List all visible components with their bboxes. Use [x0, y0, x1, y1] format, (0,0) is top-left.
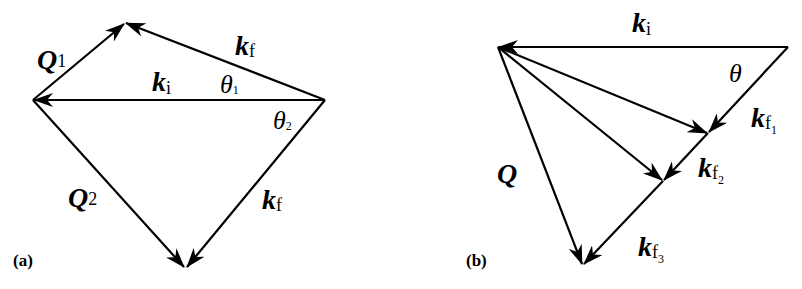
panel-a: Q1 ki kf θ1 θ2 Q2 kf (a)	[13, 23, 325, 270]
vector-Q-to-kf3	[498, 47, 582, 264]
label-Q2: Q2	[68, 182, 97, 213]
panel-b: ki θ kf1 kf2 kf3 Q (b)	[466, 7, 788, 270]
label-theta1: θ1	[220, 70, 239, 99]
label-kf3: kf3	[638, 231, 664, 266]
scattering-vector-diagram: Q1 ki kf θ1 θ2 Q2 kf (a) ki θ kf1 kf2 kf…	[0, 0, 802, 289]
label-ki-b: ki	[632, 7, 651, 39]
label-kf-lower: kf	[262, 184, 282, 215]
vector-kf-lower	[187, 100, 325, 267]
label-theta: θ	[729, 59, 742, 88]
label-ki-a: ki	[152, 66, 171, 98]
vector-Q2	[33, 100, 184, 267]
label-kf1: kf1	[751, 102, 777, 137]
panel-label-a: (a)	[13, 251, 33, 270]
label-Q1: Q1	[37, 44, 66, 75]
vector-kf1	[709, 47, 788, 132]
label-kf2: kf2	[698, 152, 724, 187]
label-Q: Q	[497, 158, 517, 189]
panel-label-b: (b)	[466, 251, 487, 270]
vector-Q-to-kf1	[498, 47, 707, 133]
diagram-canvas: Q1 ki kf θ1 θ2 Q2 kf (a) ki θ kf1 kf2 kf…	[0, 0, 802, 289]
label-kf-upper: kf	[235, 30, 255, 61]
label-theta2: θ2	[273, 106, 292, 135]
